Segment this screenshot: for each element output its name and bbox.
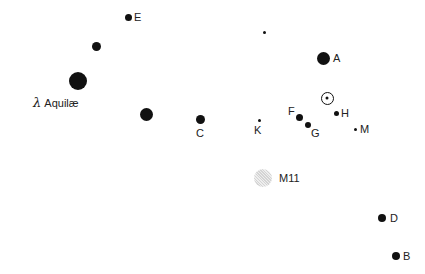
star-label-d: D [390,212,398,224]
star-label-k: K [254,124,261,136]
star-d-icon [378,214,386,222]
star-lambda-aquilae-icon [69,72,87,90]
sun-symbol-icon [321,92,334,105]
sun-center-dot-icon [326,97,329,100]
star-h-icon [334,111,339,116]
star-label-lambda-aquilae: λ Aquilæ [33,97,79,109]
star-a-icon [317,52,330,65]
star-f-icon [296,114,303,121]
cluster-m11-icon [254,169,272,187]
star-c-icon [196,115,205,124]
star-label-c: C [196,127,204,139]
star-e-icon [125,14,132,21]
star-name: Aquilæ [41,97,78,109]
star-chart: Eλ AquilæCAFGHKMDBM11 [0,0,425,274]
star-label-b: B [403,250,410,262]
star-b-icon [392,252,400,260]
star-unlabeled-3-icon [263,31,266,34]
star-k-icon [258,119,261,122]
star-label-f: F [288,105,295,117]
star-label-a: A [333,52,340,64]
star-m-icon [354,128,357,131]
greek-letter: λ [33,95,41,110]
star-label-m: M [360,123,369,135]
star-unlabeled-1-icon [92,42,101,51]
star-unlabeled-2-icon [140,108,153,121]
star-label-h: H [341,107,349,119]
cluster-label-m11: M11 [279,172,300,184]
star-label-g: G [311,127,320,139]
star-label-e: E [134,11,141,23]
